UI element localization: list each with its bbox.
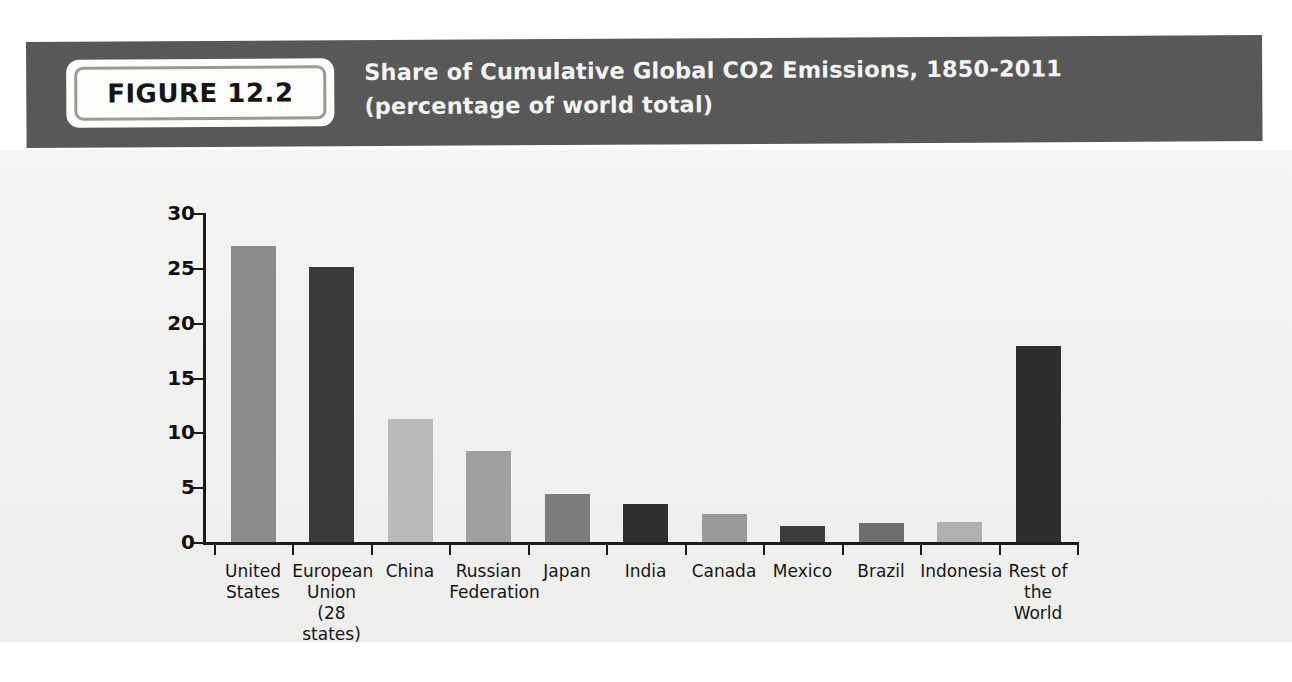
bar bbox=[388, 419, 433, 542]
bar bbox=[937, 522, 982, 542]
y-tick-label: 5 bbox=[181, 475, 195, 499]
plot-area: 051015202530 United StatesEuropean Union… bbox=[203, 213, 1123, 543]
y-tick-label: 15 bbox=[167, 366, 195, 390]
bar bbox=[859, 523, 904, 542]
y-tick-label: 25 bbox=[167, 256, 195, 280]
bar bbox=[780, 526, 825, 542]
x-tick-mark bbox=[528, 544, 530, 555]
bar bbox=[309, 267, 354, 542]
figure-page: FIGURE 12.2 Share of Cumulative Global C… bbox=[0, 0, 1292, 682]
x-tick-mark bbox=[685, 544, 687, 555]
bar bbox=[623, 504, 668, 542]
x-axis-label: United States bbox=[214, 561, 293, 603]
x-tick-mark bbox=[371, 544, 373, 555]
bar bbox=[702, 514, 747, 543]
y-tick-label: 20 bbox=[167, 311, 195, 335]
x-axis-label: India bbox=[606, 561, 685, 582]
x-tick-mark bbox=[920, 544, 922, 555]
y-axis-line bbox=[203, 213, 206, 543]
bar bbox=[1016, 346, 1061, 542]
x-tick-mark bbox=[763, 544, 765, 555]
bar bbox=[231, 246, 276, 542]
x-tick-mark bbox=[842, 544, 844, 555]
x-tick-mark bbox=[292, 544, 294, 555]
y-tick-label: 30 bbox=[167, 201, 195, 225]
x-tick-mark bbox=[999, 544, 1001, 555]
y-tick-label: 0 bbox=[181, 530, 195, 554]
x-tick-mark bbox=[1077, 544, 1079, 555]
x-axis-label: Canada bbox=[685, 561, 764, 582]
x-axis-label: European Union (28 states) bbox=[292, 561, 371, 645]
x-axis-line bbox=[203, 542, 1079, 545]
bar-chart: 051015202530 United StatesEuropean Union… bbox=[0, 0, 1292, 682]
x-axis-label: Mexico bbox=[763, 561, 842, 582]
x-axis-label: Brazil bbox=[842, 561, 921, 582]
x-tick-mark bbox=[606, 544, 608, 555]
x-axis-label: Indonesia bbox=[920, 561, 999, 582]
y-tick-label: 10 bbox=[167, 420, 195, 444]
x-tick-mark bbox=[449, 544, 451, 555]
x-axis-label: China bbox=[371, 561, 450, 582]
bar bbox=[545, 494, 590, 542]
bar bbox=[466, 451, 511, 542]
x-tick-mark bbox=[214, 544, 216, 555]
x-axis-label: Russian Federation bbox=[449, 561, 528, 603]
x-axis-label: Japan bbox=[528, 561, 607, 582]
x-axis-label: Rest of the World bbox=[999, 561, 1078, 624]
